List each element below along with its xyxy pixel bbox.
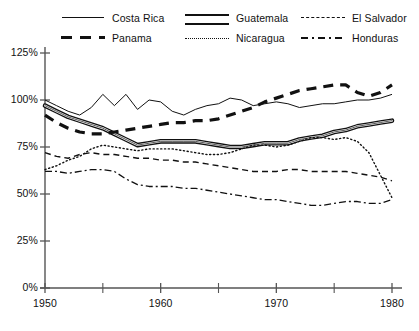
series-guatemala xyxy=(45,106,392,147)
x-tick-label: 1970 xyxy=(256,298,296,309)
series-el-salvador-line xyxy=(45,153,392,181)
chart-svg xyxy=(0,0,419,331)
y-tick-label: 25% xyxy=(2,235,38,246)
series-costa-rica xyxy=(45,94,392,115)
y-tick-label: 125% xyxy=(2,47,38,58)
series-el-salvador xyxy=(45,153,392,181)
series-guatemala-center xyxy=(45,106,392,147)
series-costa-rica-line xyxy=(45,94,392,115)
x-tick-label: 1980 xyxy=(372,298,412,309)
y-tick-label: 50% xyxy=(2,188,38,199)
series-honduras xyxy=(45,170,392,206)
y-tick-label: 75% xyxy=(2,141,38,152)
x-tick-label: 1960 xyxy=(141,298,181,309)
y-tick-label: 100% xyxy=(2,94,38,105)
series-honduras-line xyxy=(45,170,392,206)
y-tick-label: 0% xyxy=(2,282,38,293)
x-tick-label: 1950 xyxy=(25,298,65,309)
line-chart-figure: Costa RicaGuatemalaEl SalvadorPanamaNica… xyxy=(0,0,419,331)
chart-plot-area: 0%25%50%75%100%125%1950196019701980 xyxy=(0,0,419,331)
